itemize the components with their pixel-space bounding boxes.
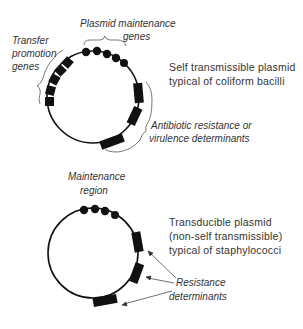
plasmid-maintenance-label-line1: Plasmid maintenance <box>80 18 176 30</box>
plasmid-2-resistance-genes <box>92 231 144 307</box>
plasmid-1-resistance-genes <box>99 83 144 150</box>
plasmid-2-maintenance-genes <box>80 205 119 219</box>
maintenance-region-label-line1: Maintenance <box>68 171 125 183</box>
resistance-label-line1: Antibiotic resistance or <box>151 120 252 132</box>
plasmid2-description-line1: Transducible plasmid <box>169 216 272 229</box>
transfer-label-line1: Transfer <box>12 35 49 47</box>
plasmid-1-maintenance-genes <box>82 47 128 67</box>
plasmid-maintenance-label-line2: genes <box>123 31 150 43</box>
plasmid2-description-line2: (non-self transmissible) <box>169 230 282 243</box>
plasmid-2-ring <box>48 208 138 298</box>
transfer-label-line3: genes <box>12 61 39 73</box>
transfer-label-line2: promotion <box>12 48 56 60</box>
maintenance-region-label-line2: region <box>80 185 108 197</box>
resistance-determinants-label-line1: Resistance <box>176 277 225 289</box>
resistance-determinants-label-line2: determinants <box>169 291 227 303</box>
plasmid2-description-line3: typical of staphylococci <box>169 244 281 257</box>
resistance-label-line2: virulence determinants <box>149 133 250 145</box>
plasmid1-description-line1: Self transmissible plasmid <box>169 61 296 74</box>
plasmid-2 <box>48 205 176 307</box>
plasmid1-description-line2: typical of coliform bacilli <box>169 75 285 88</box>
maintenance-brace <box>84 36 126 46</box>
